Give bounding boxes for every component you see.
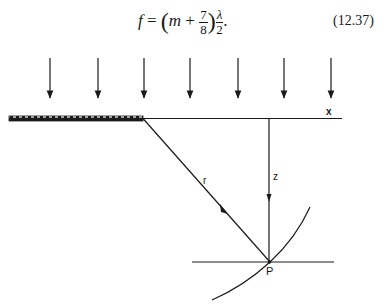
point-p-marker [268, 260, 272, 264]
distance-z-arrowhead [267, 194, 272, 202]
incident-arrows [50, 58, 331, 98]
ray-r-label: r [203, 175, 207, 186]
point-p-label: P [266, 265, 273, 277]
x-axis-label: x [326, 106, 332, 117]
ray-r [143, 119, 270, 263]
diffraction-diagram: x r z P [0, 0, 386, 306]
opaque-screen [9, 116, 143, 121]
wavefront-arc [212, 207, 310, 300]
distance-z-label: z [273, 171, 278, 182]
